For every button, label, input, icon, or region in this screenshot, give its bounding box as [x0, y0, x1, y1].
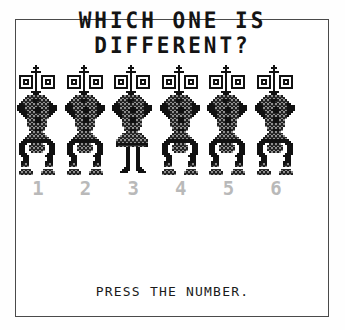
number-cell-6[interactable]: 6 — [254, 177, 298, 199]
robot-sprite-6 — [255, 65, 297, 175]
robot-choice-2[interactable] — [64, 63, 108, 175]
robot-sprite-5 — [207, 65, 249, 175]
number-cell-2[interactable]: 2 — [64, 177, 108, 199]
game-screen: WHICH ONE IS DIFFERENT? 123456 PRESS THE… — [0, 0, 345, 330]
page-title: WHICH ONE IS DIFFERENT? — [0, 8, 345, 58]
number-label-2: 2 — [64, 177, 108, 199]
number-label-4: 4 — [159, 177, 203, 199]
robot-sprite-4 — [160, 65, 202, 175]
title-line-2: DIFFERENT? — [0, 32, 345, 59]
number-label-row: 123456 — [16, 177, 298, 199]
robot-choice-3[interactable] — [111, 63, 155, 175]
robot-choice-6[interactable] — [254, 63, 298, 175]
robot-choice-5[interactable] — [206, 63, 250, 175]
robot-sprite-2 — [65, 65, 107, 175]
number-label-3: 3 — [111, 177, 155, 199]
number-cell-5[interactable]: 5 — [206, 177, 250, 199]
robot-choice-row — [16, 63, 298, 175]
title-line-1: WHICH ONE IS — [0, 7, 345, 34]
robot-sprite-1 — [17, 65, 59, 175]
number-cell-4[interactable]: 4 — [159, 177, 203, 199]
robot-choice-4[interactable] — [159, 63, 203, 175]
instruction-text: PRESS THE NUMBER. — [0, 284, 345, 299]
instruction-bar: PRESS THE NUMBER. — [0, 284, 345, 299]
number-label-5: 5 — [206, 177, 250, 199]
number-label-1: 1 — [16, 177, 60, 199]
robot-choice-1[interactable] — [16, 63, 60, 175]
number-cell-3[interactable]: 3 — [111, 177, 155, 199]
number-cell-1[interactable]: 1 — [16, 177, 60, 199]
robot-sprite-3 — [112, 65, 154, 175]
number-label-6: 6 — [254, 177, 298, 199]
